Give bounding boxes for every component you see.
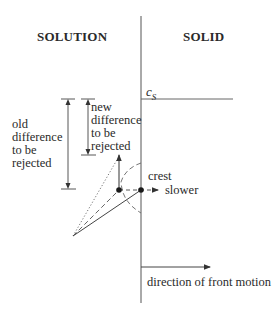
old-difference-dimension [61, 99, 76, 189]
crest-point-interface [138, 187, 144, 193]
diagram-canvas: SOLUTION SOLID cS old difference to be r… [0, 0, 278, 315]
dotted-profile [73, 158, 118, 236]
concentration-profiles [73, 158, 141, 236]
cs-label: cS [146, 85, 156, 104]
front-motion-label: direction of front motion [147, 276, 271, 289]
crest-point-left [116, 187, 122, 193]
slower-label: slower [165, 184, 198, 197]
solution-region-label: SOLUTION [37, 30, 107, 43]
solid-profile [73, 190, 141, 236]
cs-subscript: S [152, 92, 157, 102]
crest-label: crest [148, 170, 172, 183]
crest-curve [121, 163, 141, 213]
new-difference-label: new difference to be rejected [91, 101, 141, 153]
old-difference-label: old difference to be rejected [12, 118, 62, 170]
solid-region-label: SOLID [183, 30, 224, 43]
